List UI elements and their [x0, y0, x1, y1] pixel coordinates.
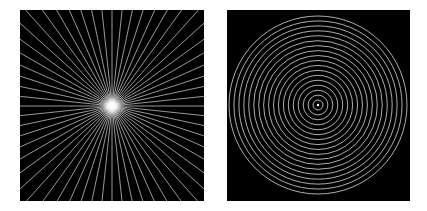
radial-line	[112, 10, 204, 106]
radial-line	[20, 106, 112, 201]
radial-line	[20, 10, 112, 106]
concentric-circles-graphic	[227, 10, 410, 201]
radial-line	[20, 106, 112, 201]
radial-line	[20, 106, 112, 201]
radial-line	[112, 10, 204, 106]
radial-line	[20, 106, 112, 201]
radial-line	[112, 106, 204, 201]
radial-line	[20, 10, 112, 106]
radial-line	[20, 10, 112, 106]
radial-line	[112, 10, 204, 106]
radial-line	[112, 106, 204, 201]
radial-line	[112, 106, 204, 201]
concentric-circles-panel: Concentric circles pattern	[227, 10, 410, 201]
radial-line	[112, 10, 204, 106]
radial-line	[20, 106, 112, 201]
radial-line	[112, 10, 174, 106]
radial-line	[20, 10, 112, 106]
radial-line	[112, 10, 204, 106]
radial-line	[112, 106, 204, 201]
radial-line	[31, 106, 112, 201]
radial-line	[20, 10, 112, 106]
radial-line	[112, 10, 204, 106]
radial-line	[112, 106, 204, 201]
radial-line	[50, 10, 112, 106]
radial-lines-graphic	[20, 10, 204, 201]
radial-line	[20, 10, 112, 106]
center-dot	[317, 104, 319, 106]
radial-line	[112, 106, 204, 201]
radial-line	[20, 106, 112, 201]
radial-line	[112, 106, 193, 201]
center-glow	[98, 92, 126, 120]
radial-lines-panel: Radial starburst pattern	[20, 10, 204, 201]
